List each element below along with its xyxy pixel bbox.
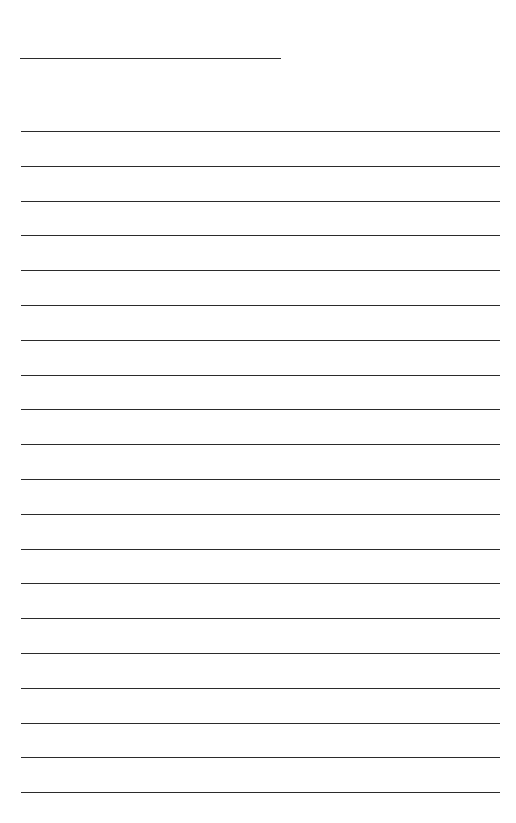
- writing-line: [21, 514, 500, 515]
- writing-line: [21, 583, 500, 584]
- writing-line: [21, 270, 500, 271]
- writing-line: [21, 409, 500, 410]
- writing-line: [21, 723, 500, 724]
- writing-line: [21, 201, 500, 202]
- writing-line: [21, 618, 500, 619]
- writing-line: [21, 166, 500, 167]
- writing-line: [21, 375, 500, 376]
- writing-line: [21, 688, 500, 689]
- writing-line: [21, 792, 500, 793]
- writing-line: [21, 444, 500, 445]
- writing-lines: [21, 0, 500, 823]
- writing-line: [21, 757, 500, 758]
- writing-line: [21, 235, 500, 236]
- writing-line: [21, 653, 500, 654]
- writing-line: [21, 340, 500, 341]
- lined-paper-page: [0, 0, 516, 823]
- writing-line: [21, 131, 500, 132]
- writing-line: [21, 479, 500, 480]
- writing-line: [21, 549, 500, 550]
- writing-line: [21, 305, 500, 306]
